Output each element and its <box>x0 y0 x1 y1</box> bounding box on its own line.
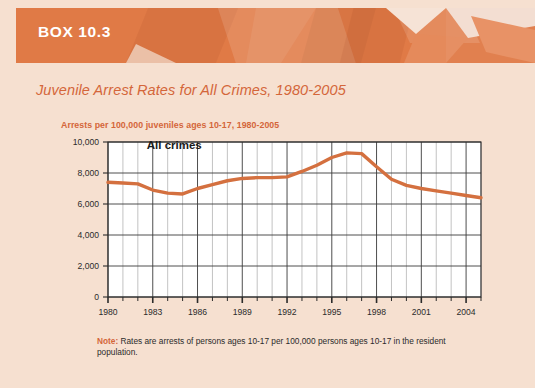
note-label: Note: <box>97 336 118 346</box>
svg-text:1986: 1986 <box>188 307 207 317</box>
svg-text:10,000: 10,000 <box>73 137 100 147</box>
svg-text:1998: 1998 <box>367 307 386 317</box>
svg-text:1995: 1995 <box>322 307 341 317</box>
svg-text:1992: 1992 <box>277 307 296 317</box>
svg-text:2,000: 2,000 <box>77 261 99 271</box>
plot-background <box>108 142 481 297</box>
svg-text:1980: 1980 <box>98 307 117 317</box>
svg-text:6,000: 6,000 <box>77 199 99 209</box>
svg-text:2001: 2001 <box>412 307 431 317</box>
y-axis-ticks <box>103 142 108 297</box>
series-annotation: All crimes <box>147 139 202 151</box>
svg-text:4,000: 4,000 <box>77 230 99 240</box>
note-text: Rates are arrests of persons ages 10-17 … <box>97 336 446 357</box>
chart-note: Note: Rates are arrests of persons ages … <box>97 336 447 359</box>
y-axis-labels: 02,0004,0006,0008,00010,000 <box>73 137 100 302</box>
svg-text:8,000: 8,000 <box>77 168 99 178</box>
line-chart: 02,0004,0006,0008,00010,000 198019831986… <box>0 0 535 388</box>
x-axis-ticks <box>108 297 481 303</box>
svg-text:0: 0 <box>94 292 99 302</box>
svg-text:All crimes: All crimes <box>147 139 202 151</box>
box-page: BOX 10.3 Juvenile Arrest Rates for All C… <box>0 0 535 388</box>
chart-container: 02,0004,0006,0008,00010,000 198019831986… <box>0 0 535 388</box>
svg-text:2004: 2004 <box>457 307 476 317</box>
x-axis-labels: 198019831986198919921995199820012004 <box>98 307 475 317</box>
svg-text:1983: 1983 <box>143 307 162 317</box>
svg-text:1989: 1989 <box>233 307 252 317</box>
